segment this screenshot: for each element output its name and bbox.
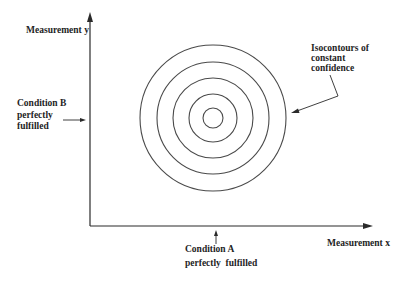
isocontours-line1: Isocontours of <box>311 43 370 53</box>
contour-ring-3 <box>173 78 253 158</box>
condition-b-line2: perfectly <box>17 110 53 120</box>
y-axis-arrowhead-icon <box>87 12 93 22</box>
contour-ring-4 <box>157 62 269 174</box>
x-axis-label: Measurement x <box>327 238 390 248</box>
isocontours-line3: confidence <box>311 63 354 73</box>
isocontours-annotation: Isocontours of constant confidence <box>291 43 370 113</box>
contour-ring-1 <box>203 108 223 128</box>
condition-a-line2: perfectly fulfilled <box>185 258 258 268</box>
condition-a-annotation: Condition A perfectly fulfilled <box>185 230 258 268</box>
isocontour-diagram: Measurement y Measurement x Condition B … <box>0 0 403 282</box>
isocontour-rings <box>140 45 286 191</box>
condition-a-line1: Condition A <box>185 244 235 254</box>
contour-ring-5 <box>140 45 286 191</box>
condition-b-arrowhead-icon <box>80 118 86 122</box>
y-axis-label: Measurement y <box>26 25 89 35</box>
condition-a-arrowhead-icon <box>214 230 218 236</box>
contour-ring-2 <box>189 94 237 142</box>
condition-b-annotation: Condition B perfectly fulfilled <box>17 98 86 131</box>
isocontours-leader-line <box>297 75 338 111</box>
isocontours-arrowhead-icon <box>291 109 300 114</box>
condition-b-line1: Condition B <box>17 98 67 108</box>
x-axis-arrowhead-icon <box>363 223 373 229</box>
condition-b-line3: fulfilled <box>17 121 49 131</box>
isocontours-line2: constant <box>311 53 346 63</box>
